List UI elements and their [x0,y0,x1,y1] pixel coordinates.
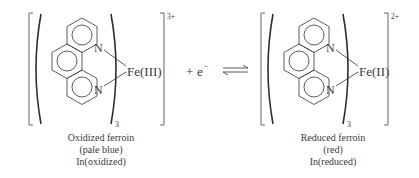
caption-name: Oxidized ferroin [68,132,134,143]
plus-sign: + [186,64,193,79]
ligand-count-subscript: 3 [347,120,351,129]
nitrogen-top-label: N [94,41,103,55]
ferroin-redox-equation: N N 3 Fe(III) 3+ Oxidized ferroin (pale … [0,0,419,178]
caption-symbol: In(reduced) [310,156,357,168]
electron-charge: − [204,62,209,71]
right-paren-open [268,14,273,124]
reduced-ferroin-complex: N N 3 Fe(II) 2+ Reduced ferroin (red) In… [261,12,399,168]
ligand-count-subscript: 3 [115,120,119,129]
phenanthroline-ligand-icon [52,18,97,105]
right-paren-close [343,14,348,124]
oxidized-ferroin-complex: N N 3 Fe(III) 3+ Oxidized ferroin (pale … [29,12,175,168]
nitrogen-bottom-label: N [94,83,103,97]
nitrogen-bottom-label: N [326,83,335,97]
metal-center-label: Fe(III) [127,64,162,79]
caption-color: (pale blue) [79,144,122,156]
charge-label: 2+ [391,12,399,21]
caption-name: Reduced ferroin [301,132,366,143]
left-paren-close [111,14,116,124]
phenanthroline-ligand-icon [284,18,329,105]
left-paren-open [36,14,41,124]
charge-label: 3+ [167,12,175,21]
right-square-bracket-open [261,13,265,125]
equilibrium-arrow-icon [223,65,248,75]
metal-center-label: Fe(II) [359,64,389,79]
nitrogen-top-label: N [326,41,335,55]
electron-term: + e − [186,62,209,79]
caption-color: (red) [323,144,342,156]
electron-symbol: e [197,64,203,79]
caption-symbol: In(oxidized) [76,156,125,168]
left-square-bracket-open [29,13,33,125]
